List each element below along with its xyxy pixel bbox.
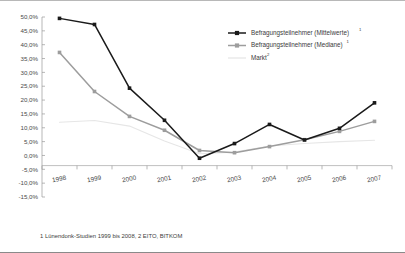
series-3 [60, 121, 375, 154]
y-axis-tick-label: 40,0% [20, 41, 38, 48]
x-axis-tick-marks [42, 166, 392, 170]
data-point-marker [268, 145, 272, 149]
x-axis-tick-label: 2007 [366, 174, 382, 184]
legend-label: Befragungsteilnehmer (Mediane) [251, 41, 343, 49]
data-point-marker [128, 86, 132, 90]
legend-item-mittelwerte[interactable]: Befragungsteilnehmer (Mittelwerte)1 [228, 27, 362, 37]
y-axis-tick-label: -10,0% [18, 179, 38, 186]
legend-label: Befragungsteilnehmer (Mittelwerte) [251, 29, 349, 37]
series-layer [58, 17, 377, 160]
x-axis-tick-label: 2002 [191, 174, 207, 184]
x-axis-tick-label: 2001 [156, 174, 172, 184]
data-point-marker [93, 90, 97, 94]
legend-item-markt[interactable]: Markt2 [228, 52, 270, 61]
series-line [60, 18, 375, 158]
data-point-marker [128, 115, 132, 119]
data-point-marker [163, 128, 167, 132]
data-point-marker [198, 149, 202, 153]
legend-footnote-marker: 1 [359, 27, 362, 32]
data-point-marker [58, 17, 62, 21]
legend-marker-icon [235, 43, 239, 47]
y-axis-tick-label: -15,0% [18, 193, 38, 200]
line-chart: 50,0%45,0%40,0%35,0%30,0%25,0%20,0%15,0%… [0, 1, 405, 253]
legend-label: Markt [251, 54, 267, 61]
data-point-marker [198, 156, 202, 160]
data-point-marker [303, 138, 307, 142]
chart-figure: 50,0%45,0%40,0%35,0%30,0%25,0%20,0%15,0%… [0, 0, 405, 253]
series-line [60, 121, 375, 154]
x-axis-tick-label: 2006 [331, 174, 347, 184]
y-axis-tick-label: 0,0% [24, 152, 39, 159]
footnote: 1 Lünendonk-Studien 1999 bis 2008, 2 EIT… [40, 233, 182, 239]
legend-item-mediane[interactable]: Befragungsteilnehmer (Mediane)1 [228, 39, 349, 49]
y-axis-tick-label: 45,0% [20, 27, 38, 34]
legend-marker-icon [235, 31, 239, 35]
x-axis-tick-label: 1999 [86, 174, 102, 184]
legend-footnote-marker: 1 [346, 39, 349, 44]
data-point-marker [338, 127, 342, 131]
y-axis-tick-labels: 50,0%45,0%40,0%35,0%30,0%25,0%20,0%15,0%… [18, 13, 38, 200]
x-axis-tick-label: 2003 [226, 174, 242, 184]
y-axis-tick-label: 5,0% [24, 138, 39, 145]
data-point-marker [233, 151, 237, 155]
y-axis-tick-label: 30,0% [20, 69, 38, 76]
x-axis-tick-label: 2004 [261, 174, 277, 184]
series-line [60, 52, 375, 152]
x-axis-tick-labels: 1998199920002001200220032004200520062007 [51, 174, 382, 184]
y-axis-tick-label: 50,0% [20, 13, 38, 20]
data-point-marker [163, 118, 167, 122]
series-1 [58, 17, 377, 160]
x-axis-tick-label: 1998 [51, 174, 67, 184]
data-point-marker [373, 120, 377, 124]
data-point-marker [93, 23, 97, 27]
data-point-marker [233, 142, 237, 146]
x-axis-tick-label: 2005 [296, 174, 312, 184]
data-point-marker [268, 123, 272, 127]
data-point-marker [373, 101, 377, 105]
y-axis-tick-label: 15,0% [20, 110, 38, 117]
y-axis-tick-label: 10,0% [20, 124, 38, 131]
x-axis-tick-label: 2000 [121, 174, 137, 184]
legend-footnote-marker: 2 [267, 52, 270, 57]
y-axis-tick-label: 35,0% [20, 55, 38, 62]
y-axis-tick-label: 20,0% [20, 96, 38, 103]
y-axis-tick-marks [42, 17, 45, 197]
data-point-marker [58, 51, 62, 55]
series-2 [58, 51, 377, 155]
y-axis-tick-label: -5,0% [22, 166, 39, 173]
y-axis-tick-label: 25,0% [20, 82, 38, 89]
chart-legend: Befragungsteilnehmer (Mittelwerte)1Befra… [228, 27, 362, 61]
